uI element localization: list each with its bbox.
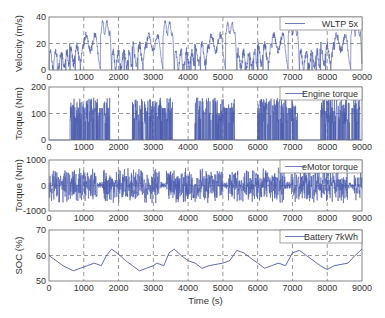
x-tick-label: 7000 (282, 72, 302, 82)
legend-label: WLTP 5x (322, 19, 359, 29)
x-tick-label: 6000 (248, 72, 268, 82)
x-tick-label: 1000 (74, 72, 94, 82)
y-tick-label: 1000 (26, 155, 46, 165)
subplot-4: 0100020003000400050006000700080009000506… (13, 225, 372, 306)
x-tick-label: 1000 (74, 142, 94, 152)
legend-label: Battery 7kWh (304, 232, 358, 242)
legend-label: eMotor torque (302, 162, 358, 172)
x-tick-label: 6000 (248, 142, 268, 152)
x-tick-label: 8000 (317, 72, 337, 82)
x-axis-label: Time (s) (188, 295, 222, 306)
y-tick-label: 100 (31, 109, 46, 119)
x-tick-label: 0 (46, 142, 51, 152)
x-tick-label: 4000 (178, 283, 198, 293)
y-tick-label: 20 (36, 39, 46, 49)
y-axis-label: Torque (Nm) (13, 87, 24, 140)
x-tick-label: 8000 (317, 142, 337, 152)
x-tick-label: 3000 (143, 142, 163, 152)
x-tick-label: 5000 (213, 142, 233, 152)
x-tick-label: 8000 (317, 213, 337, 223)
x-tick-label: 9000 (352, 283, 372, 293)
x-tick-label: 9000 (352, 72, 372, 82)
y-tick-label: 0 (41, 135, 46, 145)
data-line (49, 98, 362, 140)
x-tick-label: 0 (46, 213, 51, 223)
legend-label: Engine torque (302, 89, 358, 99)
x-tick-label: 5000 (213, 72, 233, 82)
x-tick-label: 2000 (109, 283, 129, 293)
y-tick-label: 60 (36, 251, 46, 261)
subplot-1: 0100020003000400050006000700080009000020… (13, 12, 372, 82)
x-tick-label: 1000 (74, 283, 94, 293)
x-tick-label: 6000 (248, 213, 268, 223)
x-tick-label: 3000 (143, 283, 163, 293)
x-tick-label: 4000 (178, 142, 198, 152)
y-tick-label: 0 (41, 181, 46, 191)
subplot-2: 0100020003000400050006000700080009000010… (13, 82, 372, 152)
stacked-line-charts: 0100020003000400050006000700080009000020… (0, 0, 385, 318)
x-tick-label: 1000 (74, 213, 94, 223)
y-tick-label: 40 (36, 12, 46, 22)
y-tick-label: 200 (31, 82, 46, 92)
x-tick-label: 8000 (317, 283, 337, 293)
x-tick-label: 3000 (143, 213, 163, 223)
y-tick-label: -1000 (23, 206, 46, 216)
x-tick-label: 7000 (282, 283, 302, 293)
y-tick-label: 70 (36, 225, 46, 235)
y-axis-label: SOC (%) (13, 237, 24, 275)
data-line (49, 249, 362, 271)
x-tick-label: 5000 (213, 213, 233, 223)
x-tick-label: 2000 (109, 72, 129, 82)
y-axis-label: Torque (Nm) (13, 159, 24, 212)
x-tick-label: 0 (46, 72, 51, 82)
subplot-3: 0100020003000400050006000700080009000-10… (13, 155, 372, 223)
x-tick-label: 0 (46, 283, 51, 293)
x-tick-label: 7000 (282, 213, 302, 223)
x-tick-label: 9000 (352, 142, 372, 152)
y-tick-label: 0 (41, 65, 46, 75)
x-tick-label: 4000 (178, 72, 198, 82)
y-tick-label: 50 (36, 276, 46, 286)
x-tick-label: 3000 (143, 72, 163, 82)
x-tick-label: 2000 (109, 142, 129, 152)
x-tick-label: 4000 (178, 213, 198, 223)
x-tick-label: 7000 (282, 142, 302, 152)
y-axis-label: Velocity (m/s) (13, 15, 24, 72)
x-tick-label: 5000 (213, 283, 233, 293)
x-tick-label: 9000 (352, 213, 372, 223)
x-tick-label: 2000 (109, 213, 129, 223)
x-tick-label: 6000 (248, 283, 268, 293)
